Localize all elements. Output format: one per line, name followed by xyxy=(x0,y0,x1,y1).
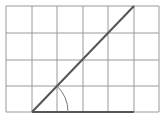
angle-diagram xyxy=(0,0,160,120)
angle-arc xyxy=(57,86,68,112)
